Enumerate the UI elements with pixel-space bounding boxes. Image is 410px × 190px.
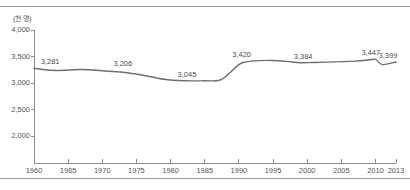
axis-ticks: [31, 30, 396, 163]
x-axis-tick-label: 1960: [26, 166, 43, 175]
x-axis-tick-label: 2013: [388, 166, 405, 175]
top-divider-rule: [0, 6, 410, 7]
data-value-label: 3,384: [294, 52, 313, 61]
x-axis-tick-label: 1970: [94, 166, 111, 175]
data-value-label: 3,420: [232, 50, 251, 59]
y-axis-tick-label: 3,500: [4, 53, 30, 61]
x-axis-tick-label: 1985: [196, 166, 213, 175]
data-value-label: 3,045: [178, 70, 197, 79]
y-axis-tick-labels: 4,0003,5003,0002,5002,000: [2, 0, 30, 190]
x-axis-tick-label: 1990: [231, 166, 248, 175]
data-value-label: 3,206: [113, 59, 132, 68]
x-axis-tick-label: 1980: [162, 166, 179, 175]
data-value-label: 3,447: [361, 48, 380, 57]
x-axis-tick-labels: 1960196519701975198019851990199520002005…: [0, 166, 410, 178]
y-axis-tick-label: 2,000: [4, 132, 30, 140]
plot-area: [34, 30, 396, 163]
data-value-label: 3,281: [41, 57, 60, 66]
chart-container: (천 명) 4,0003,5003,0002,5002,000 19601965…: [0, 0, 410, 190]
x-axis-tick-label: 2005: [333, 166, 350, 175]
y-axis-tick-label: 4,000: [4, 26, 30, 34]
data-line-series-1: [34, 59, 396, 81]
x-axis-tick-label: 2010: [367, 166, 384, 175]
x-axis-tick-label: 2000: [299, 166, 316, 175]
x-axis-tick-label: 1995: [265, 166, 282, 175]
y-axis-tick-label: 2,500: [4, 106, 30, 114]
y-axis-tick-label: 3,000: [4, 79, 30, 87]
axis-lines: [35, 30, 397, 163]
line-chart-svg: [34, 30, 396, 163]
x-axis-tick-label: 1975: [128, 166, 145, 175]
data-value-label: 3,399: [379, 51, 398, 60]
x-axis-tick-label: 1965: [60, 166, 77, 175]
bottom-divider-rule: [0, 178, 410, 179]
